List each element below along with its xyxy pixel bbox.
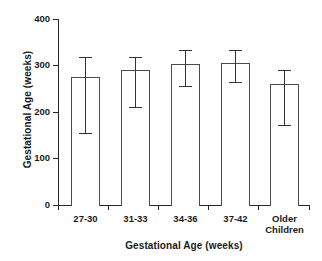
- error-bar-cap-top-4: [278, 70, 291, 71]
- error-bar-cap-bottom-0: [79, 133, 92, 134]
- y-tick-200: [53, 112, 58, 113]
- x-tick-4: [258, 205, 259, 210]
- y-tick-label-200: 200: [24, 107, 50, 117]
- x-category-label-2: 34-36: [160, 213, 211, 224]
- x-category-label-0: 27-30: [60, 213, 111, 224]
- y-tick-300: [53, 65, 58, 66]
- error-bar-cap-top-2: [179, 50, 192, 51]
- error-bar-cap-top-3: [229, 50, 242, 51]
- y-tick-label-400: 400: [24, 14, 50, 24]
- error-bar-stem-3: [235, 50, 236, 83]
- x-tick-5: [309, 205, 310, 210]
- y-tick-100: [53, 158, 58, 159]
- y-tick-400: [53, 19, 58, 20]
- bar-chart-figure: Gestational Age (weeks) 400 300 200 100 …: [0, 0, 322, 261]
- x-tick-1: [108, 205, 109, 210]
- x-axis-title: Gestational Age (weeks): [58, 240, 310, 251]
- x-category-label-1: 31-33: [110, 213, 161, 224]
- bar-3[interactable]: [221, 63, 250, 206]
- error-bar-stem-0: [85, 57, 86, 134]
- x-category-label-3: 37-42: [210, 213, 261, 224]
- y-tick-label-300: 300: [24, 60, 50, 70]
- error-bar-cap-bottom-2: [179, 86, 192, 87]
- x-category-label-4: Older Children: [259, 213, 310, 235]
- y-tick-label-100: 100: [24, 153, 50, 163]
- error-bar-stem-2: [185, 50, 186, 87]
- y-axis-line: [58, 19, 59, 206]
- y-tick-label-0: 0: [24, 200, 50, 210]
- error-bar-cap-top-0: [79, 57, 92, 58]
- x-tick-0: [58, 205, 59, 210]
- error-bar-cap-bottom-4: [278, 125, 291, 126]
- error-bar-cap-bottom-1: [129, 107, 142, 108]
- x-tick-2: [158, 205, 159, 210]
- error-bar-cap-top-1: [129, 57, 142, 58]
- x-tick-3: [208, 205, 209, 210]
- error-bar-stem-1: [135, 57, 136, 108]
- error-bar-stem-4: [284, 70, 285, 126]
- error-bar-cap-bottom-3: [229, 82, 242, 83]
- plot-area: 400 300 200 100 0: [58, 19, 310, 205]
